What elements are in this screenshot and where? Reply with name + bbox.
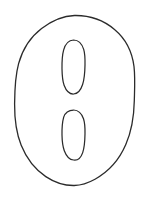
line-drawing-figure xyxy=(0,0,156,198)
drawing-canvas xyxy=(0,0,156,198)
canvas-background xyxy=(0,0,156,198)
